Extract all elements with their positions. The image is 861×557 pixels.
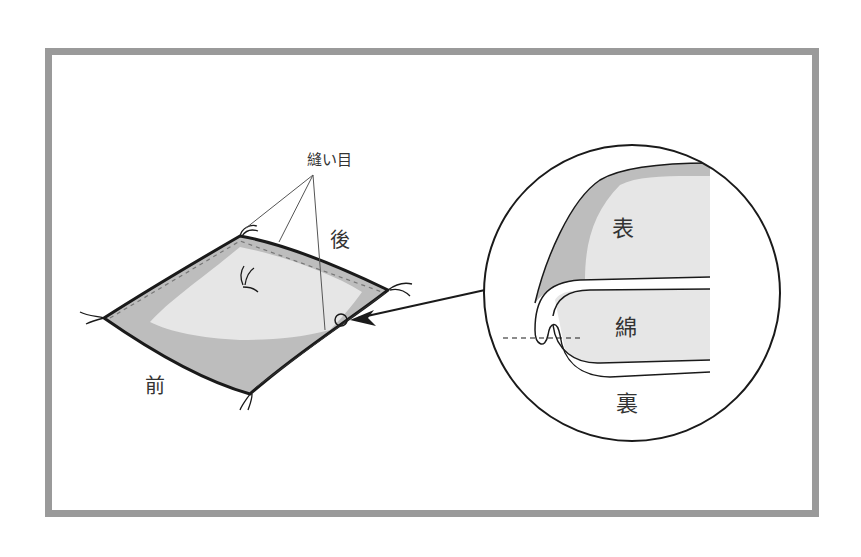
front-label: 前: [145, 376, 165, 396]
face-fabric-label: 表: [612, 218, 634, 240]
cotton-label: 綿: [615, 317, 637, 339]
seam-label: 縫い目: [307, 153, 352, 168]
back-label: 後: [330, 230, 350, 250]
back-fabric-label: 裏: [616, 393, 638, 415]
cushion-illustration: [0, 0, 861, 557]
